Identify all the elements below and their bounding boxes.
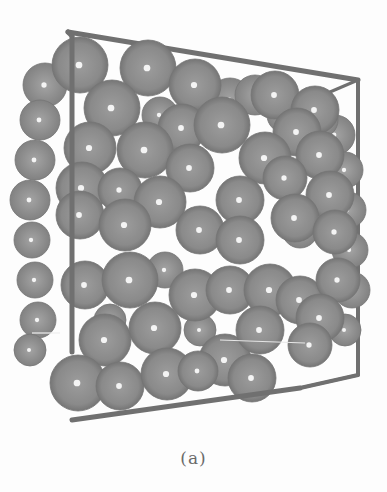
sphere-highlight (32, 278, 36, 282)
sphere (10, 180, 50, 220)
sphere-packing-render (0, 0, 387, 440)
sphere (99, 199, 151, 251)
sphere-highlight (331, 229, 336, 234)
sphere (288, 323, 332, 367)
sphere (56, 191, 104, 239)
sphere-highlight (29, 238, 33, 242)
frame-edge (330, 80, 358, 92)
sphere-highlight (334, 277, 339, 282)
sphere-highlight (32, 158, 37, 163)
sphere (15, 140, 55, 180)
sphere-highlight (76, 212, 82, 218)
sphere-highlight (74, 380, 81, 387)
sphere-highlight (141, 147, 148, 154)
sphere-highlight (162, 268, 166, 272)
sphere-highlight (226, 287, 232, 293)
sphere-highlight (27, 348, 31, 352)
sphere-highlight (236, 197, 242, 203)
sphere-highlight (27, 198, 32, 203)
figure-caption: (a) (0, 448, 387, 468)
sphere (61, 261, 109, 309)
sphere (102, 252, 158, 308)
sphere-highlight (291, 215, 297, 221)
frame-edge (68, 32, 72, 36)
sphere-highlight (266, 287, 272, 293)
sphere (313, 210, 357, 254)
sphere-highlight (126, 277, 133, 284)
sphere (14, 222, 50, 258)
sphere-highlight (248, 375, 254, 381)
sphere-highlight (37, 118, 42, 123)
sphere (129, 302, 181, 354)
sphere-highlight (311, 107, 317, 113)
sphere-highlight (41, 82, 46, 87)
sphere (17, 262, 53, 298)
sphere (271, 194, 319, 242)
frame-edge (300, 375, 358, 388)
sphere-highlight (81, 282, 87, 288)
sphere-highlight (218, 122, 225, 129)
sphere-highlight (78, 185, 84, 191)
sphere-highlight (116, 187, 121, 192)
sphere-highlight (121, 222, 127, 228)
sphere-highlight (316, 315, 322, 321)
sphere-highlight (326, 192, 332, 198)
sphere-highlight (156, 199, 162, 205)
sphere (20, 100, 60, 140)
sphere-highlight (281, 175, 286, 180)
sphere (263, 156, 307, 200)
sphere-highlight (144, 65, 151, 72)
sphere-highlight (271, 92, 277, 98)
sphere-highlight (163, 371, 169, 377)
sphere-highlight (316, 152, 322, 158)
sphere (178, 351, 218, 391)
sphere-highlight (342, 328, 346, 332)
sphere-highlight (306, 342, 311, 347)
sphere-highlight (261, 155, 267, 161)
sphere-highlight (196, 227, 202, 233)
spheres-front-layer (50, 37, 360, 411)
sphere (96, 362, 144, 410)
sphere-highlight (191, 82, 197, 88)
sphere (216, 216, 264, 264)
sphere-highlight (195, 369, 200, 374)
sphere-highlight (86, 145, 92, 151)
sphere-highlight (236, 237, 242, 243)
sphere (14, 334, 46, 366)
sphere-highlight (186, 165, 192, 171)
sphere (236, 306, 284, 354)
sphere-highlight (191, 292, 197, 298)
sphere-highlight (256, 327, 262, 333)
sphere-highlight (342, 168, 346, 172)
sphere-highlight (178, 125, 184, 131)
sphere-highlight (76, 62, 83, 69)
sphere-highlight (197, 328, 201, 332)
sphere-highlight (101, 337, 107, 343)
sphere-highlight (293, 129, 299, 135)
sphere (194, 97, 250, 153)
sphere-highlight (116, 383, 122, 389)
sphere-highlight (296, 297, 302, 303)
sphere-highlight (221, 357, 227, 363)
sphere-highlight (35, 318, 39, 322)
sphere-highlight (108, 105, 115, 112)
sphere-highlight (151, 325, 157, 331)
